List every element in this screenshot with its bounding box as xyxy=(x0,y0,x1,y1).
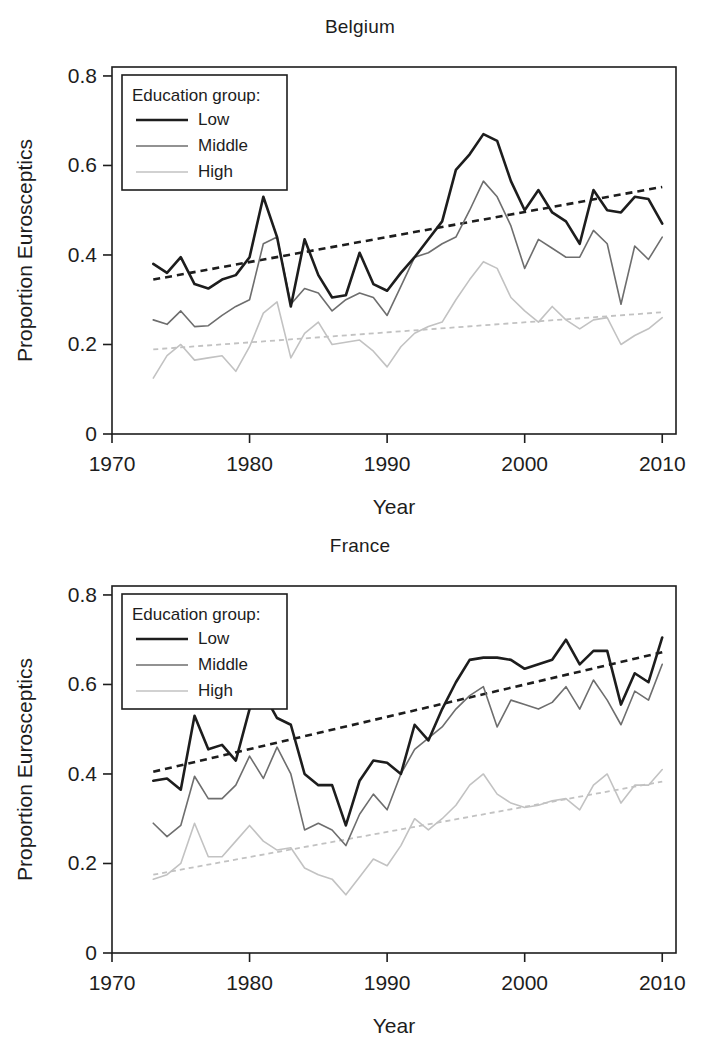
x-tick-label: 2000 xyxy=(501,452,548,475)
chart-svg-belgium: 00.20.40.60.819701980199020002010YearPro… xyxy=(0,0,720,519)
y-tick-label: 0.8 xyxy=(68,583,97,606)
y-tick-label: 0.2 xyxy=(68,851,97,874)
x-tick-label: 2010 xyxy=(639,971,686,994)
x-tick-label: 2010 xyxy=(639,452,686,475)
x-axis-title: Year xyxy=(373,495,415,518)
legend-label-middle: Middle xyxy=(198,136,248,155)
x-tick-label: 1970 xyxy=(89,452,136,475)
y-axis-title: Proportion Eurosceptics xyxy=(13,139,36,362)
series-line-high xyxy=(153,262,662,378)
series-line-high xyxy=(153,770,662,895)
y-axis-title: Proportion Eurosceptics xyxy=(13,658,36,881)
y-tick-label: 0.6 xyxy=(68,672,97,695)
legend-label-high: High xyxy=(198,681,233,700)
y-tick-label: 0 xyxy=(85,941,97,964)
chart-panel-france: France 00.20.40.60.819701980199020002010… xyxy=(0,519,720,1039)
x-tick-label: 1980 xyxy=(226,971,273,994)
x-tick-label: 1990 xyxy=(364,971,411,994)
y-tick-label: 0.2 xyxy=(68,332,97,355)
x-tick-label: 1970 xyxy=(89,971,136,994)
legend-label-high: High xyxy=(198,162,233,181)
y-tick-label: 0.4 xyxy=(68,243,98,266)
x-tick-label: 1990 xyxy=(364,452,411,475)
y-tick-label: 0.4 xyxy=(68,762,98,785)
legend-title: Education group: xyxy=(132,605,261,624)
legend-label-low: Low xyxy=(198,629,230,648)
x-tick-label: 2000 xyxy=(501,971,548,994)
series-line-middle xyxy=(153,181,662,326)
legend-title: Education group: xyxy=(132,86,261,105)
chart-panel-belgium: Belgium 00.20.40.60.81970198019902000201… xyxy=(0,0,720,519)
figure-page: Belgium 00.20.40.60.81970198019902000201… xyxy=(0,0,720,1039)
chart-svg-france: 00.20.40.60.819701980199020002010YearPro… xyxy=(0,519,720,1039)
legend-label-low: Low xyxy=(198,110,230,129)
trendline-high-trend xyxy=(153,312,662,349)
legend-label-middle: Middle xyxy=(198,655,248,674)
y-tick-label: 0 xyxy=(85,422,97,445)
x-tick-label: 1980 xyxy=(226,452,273,475)
chart-title-belgium: Belgium xyxy=(0,16,720,38)
trendline-high-trend xyxy=(153,782,662,875)
y-tick-label: 0.6 xyxy=(68,153,97,176)
chart-title-france: France xyxy=(0,535,720,557)
x-axis-title: Year xyxy=(373,1014,415,1037)
y-tick-label: 0.8 xyxy=(68,64,97,87)
